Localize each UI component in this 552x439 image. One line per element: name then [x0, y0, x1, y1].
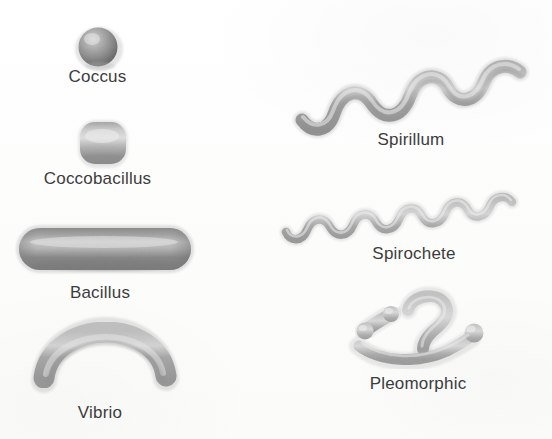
spirochete-shape [276, 180, 538, 246]
label-vibrio: Vibrio [0, 403, 200, 423]
pleomorphic-dumbbell [357, 306, 400, 340]
pleomorphic-shape [352, 288, 512, 374]
label-spirillum: Spirillum [300, 130, 522, 150]
coccobacillus-shadow [85, 154, 121, 164]
vibrio-shape [24, 318, 188, 390]
coccobacillus-highlight [85, 129, 119, 143]
label-coccus: Coccus [0, 67, 195, 87]
bacteria-morphology-figure: Coccus Coccobacillus Bacillus Vibrio [0, 0, 552, 439]
label-coccobacillus: Coccobacillus [0, 169, 195, 189]
label-pleomorphic: Pleomorphic [300, 374, 536, 394]
bacillus-shadow [34, 259, 178, 271]
pleomorphic-hook [408, 295, 448, 350]
label-spirochete: Spirochete [300, 244, 528, 264]
bacillus-highlight [30, 236, 178, 248]
spirillum-shape [288, 56, 538, 136]
coccus-highlight [84, 33, 100, 45]
bacillus-shape [8, 218, 204, 282]
label-bacillus: Bacillus [0, 283, 200, 303]
coccus-body [79, 28, 118, 67]
